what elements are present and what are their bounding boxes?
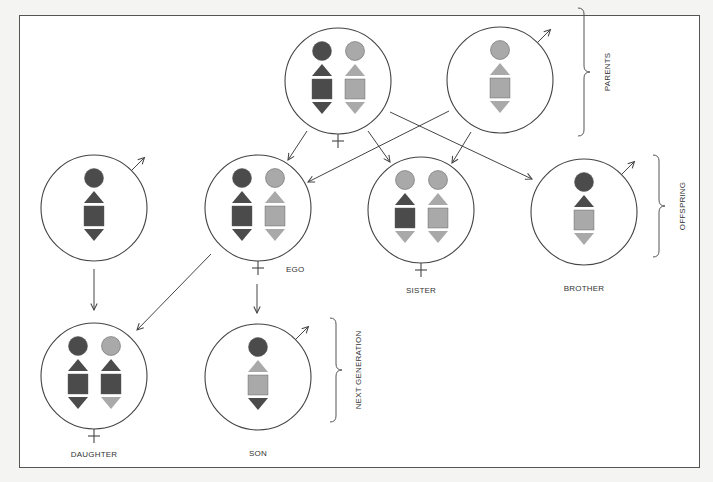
- sister-cell-circle: [368, 157, 474, 263]
- circle-segment: [69, 337, 88, 356]
- individual-son: [205, 324, 311, 430]
- square-segment: [248, 375, 268, 395]
- ego-label: EGO: [286, 265, 304, 274]
- sister-label: SISTER: [406, 286, 436, 295]
- parents-label: PARENTS: [603, 53, 612, 92]
- circle-segment: [396, 171, 415, 190]
- square-segment: [395, 208, 415, 228]
- daughter-cell-circle: [41, 323, 147, 429]
- circle-segment: [346, 42, 365, 61]
- square-segment: [101, 374, 121, 394]
- circle-segment: [266, 169, 285, 188]
- individual-mate: [41, 155, 147, 261]
- circle-segment: [575, 173, 594, 192]
- square-segment: [265, 206, 285, 226]
- square-segment: [574, 210, 594, 230]
- circle-segment: [429, 171, 448, 190]
- circle-segment: [313, 42, 332, 61]
- square-segment: [428, 208, 448, 228]
- brother-label: BROTHER: [564, 284, 605, 293]
- circle-segment: [249, 338, 268, 357]
- chromosome-inheritance-diagram: PARENTS OFFSPRING NEXT GENERATION EGO SI…: [0, 0, 713, 482]
- son-label: SON: [249, 449, 267, 458]
- square-segment: [312, 79, 332, 99]
- offspring-label: OFFSPRING: [678, 182, 687, 230]
- mother-cell-circle: [285, 28, 391, 134]
- square-segment: [345, 79, 365, 99]
- next-generation-label: NEXT GENERATION: [354, 331, 363, 410]
- square-segment: [490, 78, 510, 98]
- individual-brother: [531, 159, 637, 265]
- square-segment: [232, 206, 252, 226]
- daughter-label: DAUGHTER: [71, 450, 118, 459]
- circle-segment: [491, 41, 510, 60]
- circle-segment: [85, 169, 104, 188]
- individual-father: [447, 27, 553, 133]
- circle-segment: [233, 169, 252, 188]
- square-segment: [84, 206, 104, 226]
- circle-segment: [102, 337, 121, 356]
- ego-cell-circle: [205, 155, 311, 261]
- square-segment: [68, 374, 88, 394]
